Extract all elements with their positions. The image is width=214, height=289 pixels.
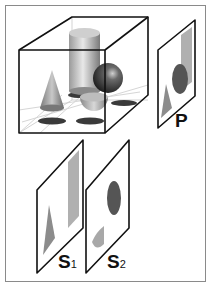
p-ellipse <box>172 64 188 94</box>
cone <box>40 70 64 112</box>
s1-rectangle <box>68 150 79 228</box>
projection-diagram: P S1 S2 <box>0 0 214 289</box>
plane-p: P <box>158 20 195 131</box>
plane-s2: S2 <box>86 140 129 273</box>
label-p: P <box>175 110 188 131</box>
glass-box <box>19 17 148 133</box>
label-s1: S1 <box>58 251 77 272</box>
plane-s1: S1 <box>37 140 83 273</box>
s2-ellipse <box>107 181 121 215</box>
label-s2: S2 <box>107 251 126 272</box>
sphere <box>93 63 123 93</box>
hemisphere <box>80 93 108 112</box>
